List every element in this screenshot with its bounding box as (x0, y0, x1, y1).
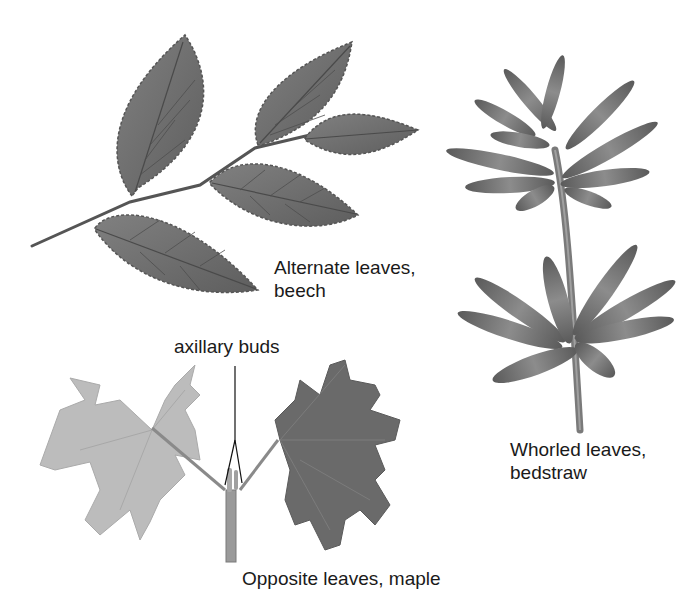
axillary-buds-pointer (225, 366, 242, 485)
caption-whorled-leaves: Whorled leaves, bedstraw (510, 438, 646, 484)
caption-alternate-line2: beech (274, 279, 416, 302)
caption-whorled-line1: Whorled leaves, (510, 438, 646, 461)
beech-leaf-5 (95, 215, 258, 293)
maple-leaf-right (275, 360, 400, 550)
caption-opposite-line1: Opposite leaves, maple (242, 567, 441, 590)
bedstraw-whorl-upper (445, 53, 662, 215)
annotation-axillary-buds: axillary buds (174, 335, 280, 358)
bedstraw-plant (445, 53, 680, 430)
caption-whorled-line2: bedstraw (510, 461, 646, 484)
beech-branch (32, 35, 418, 293)
axillary-buds-label: axillary buds (174, 335, 280, 358)
maple-branch (40, 360, 400, 562)
caption-opposite-leaves: Opposite leaves, maple (242, 567, 441, 590)
leaf-arrangement-figure: Alternate leaves, beech Whorled leaves, … (0, 0, 689, 608)
caption-alternate-leaves: Alternate leaves, beech (274, 256, 416, 302)
maple-leaf-left (40, 365, 200, 540)
beech-leaf-4 (210, 164, 358, 226)
illustration (0, 0, 689, 608)
beech-leaf-1 (117, 35, 204, 196)
beech-leaf-3 (305, 114, 418, 154)
caption-alternate-line1: Alternate leaves, (274, 256, 416, 279)
